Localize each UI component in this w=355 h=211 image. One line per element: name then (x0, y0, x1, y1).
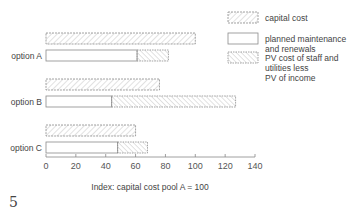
x-tick-label: 60 (131, 161, 141, 171)
maintenance-bar (46, 50, 137, 61)
figure-number: 5 (9, 194, 18, 210)
x-tick-label: 0 (43, 161, 48, 171)
legend-item: planned maintenanceand renewals (228, 33, 347, 54)
maintenance-bar (46, 96, 112, 107)
legend-item: PV cost of staff andutilities lessPV of … (228, 52, 339, 83)
x-tick-label: 140 (247, 161, 262, 171)
capital-cost-bar (46, 33, 195, 44)
pv-staff-utilities-bar (118, 142, 148, 153)
pv-staff-utilities-bar (112, 96, 236, 107)
legend-label: PV cost of staff and (265, 53, 339, 63)
bar-group-option-C: option C (10, 125, 147, 153)
capital-cost-bar (46, 79, 159, 90)
chart: option Aoption Boption C 020406080100120… (0, 0, 355, 211)
maintenance-bar (46, 142, 118, 153)
legend-item: capital cost (228, 12, 308, 23)
pv-staff-utilities-bar (137, 50, 168, 61)
category-label: option A (11, 51, 42, 61)
legend-label: PV of income (265, 73, 316, 83)
legend-swatch (228, 33, 258, 44)
category-label: option B (11, 97, 43, 107)
x-tick-label: 120 (218, 161, 233, 171)
legend-swatch (228, 52, 258, 63)
legend: capital costplanned maintenanceand renew… (228, 12, 347, 83)
x-tick-label: 20 (71, 161, 81, 171)
legend-label: planned maintenance (265, 34, 347, 44)
x-axis-label: Index: capital cost pool A = 100 (91, 182, 209, 192)
capital-cost-bar (46, 125, 136, 136)
x-tick-label: 80 (160, 161, 170, 171)
bar-group-option-A: option A (11, 33, 195, 61)
legend-label: utilities less (265, 63, 308, 73)
bars-group: option Aoption Boption C (10, 33, 235, 153)
category-label: option C (10, 143, 42, 153)
legend-swatch (228, 12, 258, 23)
x-tick-label: 100 (188, 161, 203, 171)
legend-label: capital cost (265, 13, 308, 23)
x-axis: 020406080100120140 (43, 154, 262, 171)
bar-group-option-B: option B (11, 79, 236, 107)
x-tick-label: 40 (101, 161, 111, 171)
